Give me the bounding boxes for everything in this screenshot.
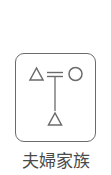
female-circle-icon xyxy=(69,68,82,81)
male-triangle-icon xyxy=(30,68,43,80)
caption-label: 夫婦家族 xyxy=(0,150,111,172)
kinship-diagram-icon xyxy=(0,0,111,175)
child-triangle-icon xyxy=(49,113,62,125)
